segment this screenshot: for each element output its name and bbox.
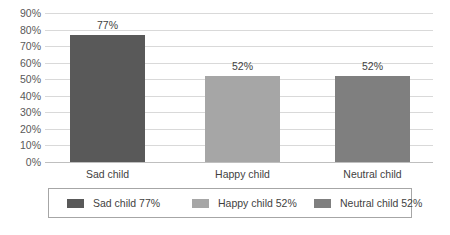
y-axis-tick-label: 0% — [0, 157, 41, 167]
bar-neutral-child — [335, 76, 410, 162]
y-axis-tick-label: 20% — [0, 124, 41, 134]
category-label-neutral-child: Neutral child — [315, 168, 430, 180]
y-axis-tick-label: 90% — [0, 8, 41, 18]
axis-baseline — [45, 162, 433, 163]
legend-label-sad-child: Sad child 77% — [93, 198, 160, 209]
legend-label-happy-child: Happy child 52% — [218, 198, 297, 209]
legend-swatch-icon-neutral-child — [314, 199, 331, 208]
legend-entry-happy-child: Happy child 52% — [192, 198, 297, 209]
bar-happy-child — [205, 76, 280, 162]
value-label-happy-child: 52% — [205, 61, 280, 72]
legend-swatch-icon-sad-child — [67, 199, 84, 208]
legend-entry-sad-child: Sad child 77% — [67, 198, 160, 209]
y-axis-tick-label: 50% — [0, 74, 41, 84]
y-axis-tick-label: 80% — [0, 25, 41, 35]
category-label-happy-child: Happy child — [185, 168, 300, 180]
legend-entry-neutral-child: Neutral child 52% — [314, 198, 422, 209]
category-label-sad-child: Sad child — [50, 168, 165, 180]
gridline — [45, 13, 433, 14]
y-axis-tick-label: 30% — [0, 107, 41, 117]
y-axis-tick-label: 60% — [0, 58, 41, 68]
y-axis-tick-label: 10% — [0, 140, 41, 150]
value-label-sad-child: 77% — [70, 20, 145, 31]
bar-sad-child — [70, 35, 145, 162]
y-axis: 90%80%70%60%50%40%30%20%10%0% — [0, 0, 41, 175]
y-axis-tick-label: 40% — [0, 91, 41, 101]
legend-label-neutral-child: Neutral child 52% — [340, 198, 422, 209]
bar-chart: 90%80%70%60%50%40%30%20%10%0% 77%Sad chi… — [0, 0, 450, 235]
legend-swatch-icon-happy-child — [192, 199, 209, 208]
chart-legend: Sad child 77%Happy child 52%Neutral chil… — [48, 188, 412, 218]
y-axis-tick-label: 70% — [0, 41, 41, 51]
value-label-neutral-child: 52% — [335, 61, 410, 72]
